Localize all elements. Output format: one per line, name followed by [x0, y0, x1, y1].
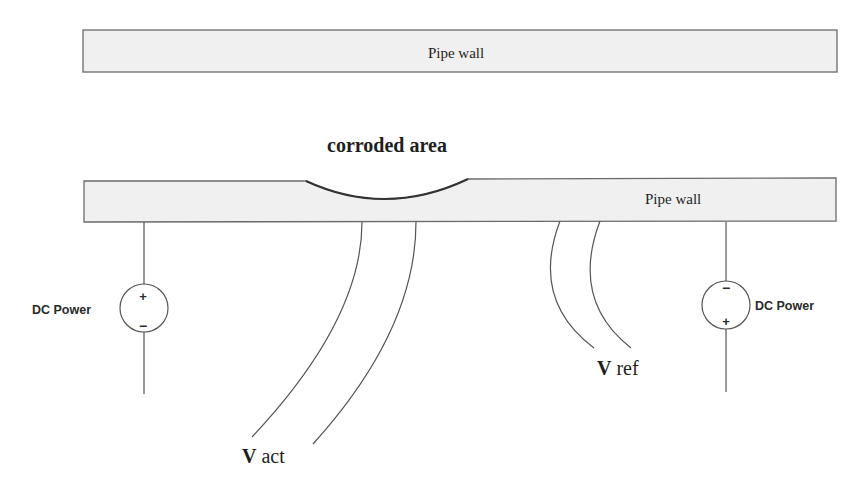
corrosion-measurement-diagram: Pipe wall corroded area Pipe wall + − DC…	[0, 0, 860, 495]
left-minus-sign: −	[139, 318, 147, 334]
v-act-label: V act	[242, 445, 285, 467]
top-pipe-wall-label: Pipe wall	[428, 45, 484, 61]
corroded-area-label: corroded area	[327, 134, 447, 156]
v-ref-probe: V ref	[550, 221, 639, 379]
right-plus-sign: +	[722, 314, 730, 329]
right-dc-power: − + DC Power	[702, 222, 814, 392]
left-dc-power-label: DC Power	[32, 303, 91, 317]
v-act-probe: V act	[242, 222, 416, 467]
right-minus-sign: −	[722, 280, 730, 296]
v-ref-label: V ref	[597, 357, 639, 379]
right-dc-power-label: DC Power	[755, 299, 814, 313]
bottom-pipe-wall: Pipe wall	[84, 178, 836, 222]
top-pipe-wall: Pipe wall	[83, 30, 837, 72]
left-plus-sign: +	[139, 289, 147, 304]
bottom-pipe-wall-label: Pipe wall	[645, 191, 701, 207]
left-dc-power: + − DC Power	[32, 222, 168, 394]
